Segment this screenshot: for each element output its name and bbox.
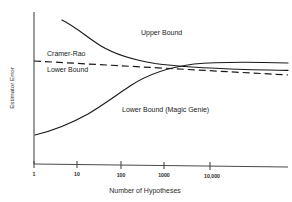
x-tick-label-1000: 1000 [158, 172, 170, 178]
x-axis-line [34, 164, 288, 167]
x-tick-label-1: 1 [33, 171, 36, 177]
annotation-cramer-rao: Cramer-Rao [47, 50, 86, 57]
annotation-upper-bound: Upper Bound [141, 29, 182, 37]
y-axis-title: Estimator Error [8, 67, 15, 109]
annotation-cramer-rao-lower: Lower Bound [47, 66, 88, 73]
x-tick-label-10000: 10,000 [204, 173, 220, 179]
series-lower-bound-magic-genie [35, 62, 288, 135]
x-tick-label-10: 10 [74, 171, 80, 177]
chart-plot-area: 1 10 100 1000 10,000 Upper Bound Cramer-… [0, 0, 292, 202]
x-axis-title: Number of Hypotheses [109, 187, 181, 195]
annotation-lower-bound-magic-genie: Lower Bound (Magic Genie) [122, 106, 209, 114]
x-tick-label-100: 100 [117, 172, 126, 178]
chart-figure: 1 10 100 1000 10,000 Upper Bound Cramer-… [0, 0, 292, 202]
